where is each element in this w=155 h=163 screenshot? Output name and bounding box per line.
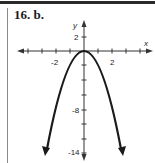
x-tick-label: -2 bbox=[51, 58, 59, 67]
y-tick-label: 2 bbox=[74, 33, 79, 42]
curve-right-arrow-icon bbox=[118, 146, 126, 156]
y-axis-up-arrow-icon bbox=[82, 20, 87, 27]
y-axis-down-arrow-icon bbox=[82, 154, 87, 161]
y-tick-label: -8 bbox=[72, 106, 80, 115]
parabola-chart: -2 2 x 2 -8 -14 y bbox=[0, 0, 155, 163]
x-tick-label: 2 bbox=[110, 58, 115, 67]
x-axis-left-arrow-icon bbox=[17, 49, 24, 54]
y-tick-label: -14 bbox=[68, 148, 80, 157]
x-axis-label: x bbox=[143, 39, 149, 48]
curve-left-arrow-icon bbox=[42, 146, 50, 156]
y-axis: 2 -8 -14 y bbox=[68, 20, 87, 161]
y-axis-label: y bbox=[72, 21, 78, 30]
x-axis-right-arrow-icon bbox=[146, 49, 153, 54]
x-axis: -2 2 x bbox=[17, 39, 153, 67]
